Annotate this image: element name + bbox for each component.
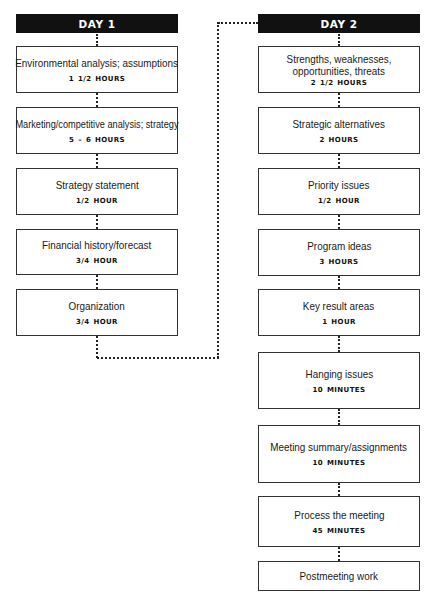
step-duration: 1 1/2 HOURS: [69, 75, 125, 83]
step-title: Marketing/competitive analysis; strategy: [15, 118, 178, 130]
day2-step-hanging-issues: Hanging issues 10 MINUTES: [258, 352, 420, 409]
step-duration: 3/4 HOUR: [76, 318, 118, 326]
step-duration: 3/4 HOUR: [76, 257, 118, 265]
step-title: Financial history/forecast: [42, 239, 151, 251]
step-title: Organization: [69, 300, 125, 312]
day1-header: DAY 1: [16, 14, 178, 33]
step-title: Postmeeting work: [300, 570, 379, 582]
day2-step-priority-issues: Priority issues 1/2 HOUR: [258, 168, 420, 215]
step-title: Key result areas: [303, 300, 374, 312]
connector: [96, 275, 98, 289]
step-duration: 10 MINUTES: [313, 459, 366, 467]
day2-step-key-result-areas: Key result areas 1 HOUR: [258, 289, 420, 336]
step-duration: 2 HOURS: [319, 136, 358, 144]
step-title: Program ideas: [307, 240, 371, 252]
connector: [96, 34, 98, 46]
connector: [338, 409, 340, 425]
day2-header: DAY 2: [258, 14, 420, 33]
day-link-connector-down: [96, 336, 98, 358]
step-title: Strategic alternatives: [293, 118, 385, 130]
step-title: Hanging issues: [305, 368, 373, 380]
connector: [338, 276, 340, 289]
day2-step-program-ideas: Program ideas 3 HOURS: [258, 229, 420, 276]
step-duration: 1/2 HOUR: [318, 197, 360, 205]
connector: [96, 93, 98, 107]
step-title: Priority issues: [308, 179, 370, 191]
day1-step-environmental-analysis: Environmental analysis; assumptions 1 1/…: [16, 46, 178, 93]
connector: [96, 215, 98, 229]
step-duration: 1 HOUR: [322, 318, 356, 326]
connector: [96, 154, 98, 168]
step-title-line: opportunities, threats: [293, 65, 385, 77]
day1-step-marketing-analysis: Marketing/competitive analysis; strategy…: [16, 107, 178, 154]
day2-step-process-meeting: Process the meeting 45 MINUTES: [258, 496, 420, 547]
connector: [338, 336, 340, 352]
step-duration: 10 MINUTES: [313, 386, 366, 394]
step-duration: 45 MINUTES: [313, 527, 366, 535]
day1-step-organization: Organization 3/4 HOUR: [16, 289, 178, 336]
connector: [338, 154, 340, 168]
step-duration: 5 – 6 HOURS: [69, 136, 125, 144]
step-duration: 3 HOURS: [319, 258, 358, 266]
day-link-connector-horizontal-bottom: [97, 357, 219, 359]
connector: [338, 483, 340, 496]
step-title-line: Strengths, weaknesses,: [286, 53, 391, 65]
connector: [338, 93, 340, 107]
day2-step-meeting-summary: Meeting summary/assignments 10 MINUTES: [258, 425, 420, 483]
day2-step-swot: Strengths, weaknesses, opportunities, th…: [258, 46, 420, 93]
day-link-connector-up: [217, 22, 219, 358]
connector: [338, 34, 340, 46]
day-link-connector-horizontal-top: [218, 22, 258, 24]
step-title: Strategy statement: [55, 179, 138, 191]
step-title: Environmental analysis; assumptions: [16, 57, 179, 69]
day2-step-strategic-alternatives: Strategic alternatives 2 HOURS: [258, 107, 420, 154]
day2-step-postmeeting-work: Postmeeting work: [258, 561, 420, 591]
day1-step-financial-history: Financial history/forecast 3/4 HOUR: [16, 229, 178, 275]
day1-step-strategy-statement: Strategy statement 1/2 HOUR: [16, 168, 178, 215]
connector: [338, 547, 340, 561]
step-title: Meeting summary/assignments: [271, 441, 408, 453]
connector: [338, 215, 340, 229]
step-title: Process the meeting: [294, 509, 384, 521]
step-duration: 1/2 HOUR: [76, 197, 118, 205]
step-duration: 2 1/2 HOURS: [311, 79, 367, 87]
